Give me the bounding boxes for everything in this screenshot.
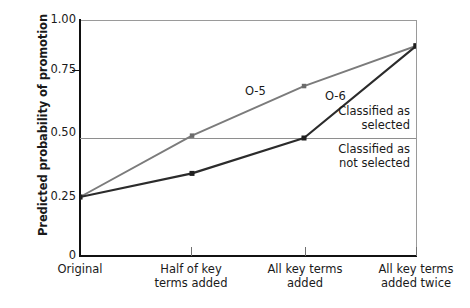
annotation-classified-selected: Classified as selected — [314, 104, 410, 132]
series-label-o5: O-5 — [245, 84, 266, 98]
series-label-o6: O-6 — [325, 89, 346, 103]
x-tick-label-half-of-key-terms-added: Half of key terms added — [141, 262, 241, 290]
y-tick-mark-0-75 — [72, 70, 80, 71]
plot-border-right — [416, 20, 417, 256]
x-label-2-line-1: All key terms — [255, 262, 355, 276]
y-tick-label-1-00: 1.00 — [30, 14, 76, 26]
x-label-2-line-2: added — [255, 276, 355, 290]
x-label-1-line-1: Half of key — [141, 262, 241, 276]
chart-figure: Predicted probability of promotion 1.00 … — [0, 0, 470, 308]
x-tick-mark-3 — [416, 247, 417, 256]
y-tick-label-0-25: 0.25 — [30, 191, 76, 203]
annotation-selected-line-2: selected — [314, 118, 410, 132]
y-tick-label-0-50: 0.50 — [30, 127, 76, 139]
x-label-1-line-2: terms added — [141, 276, 241, 290]
x-label-3-line-2: added twice — [366, 276, 466, 290]
x-tick-label-all-key-terms-added-twice: All key terms added twice — [366, 262, 466, 290]
x-tick-label-all-key-terms-added: All key terms added — [255, 262, 355, 290]
x-label-3-line-1: All key terms — [366, 262, 466, 276]
annotation-classified-not-selected: Classified as not selected — [314, 142, 410, 170]
plot-area — [80, 20, 416, 256]
annotation-not-selected-line-1: Classified as — [314, 142, 410, 156]
annotation-selected-line-1: Classified as — [314, 104, 410, 118]
series-svg — [80, 20, 416, 256]
y-tick-label-0-75: 0.75 — [30, 64, 76, 76]
y-tick-label-0: 0 — [30, 250, 76, 262]
x-tick-label-original: Original — [30, 262, 130, 276]
x-label-0-line-1: Original — [30, 262, 130, 276]
annotation-not-selected-line-2: not selected — [314, 156, 410, 170]
